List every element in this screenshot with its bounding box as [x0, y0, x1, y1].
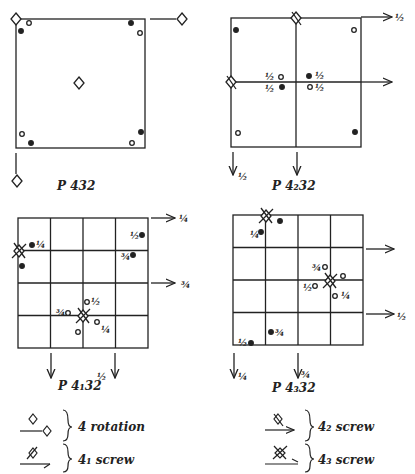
fraction-label: ¼ — [179, 214, 188, 224]
fraction-label: ½ — [265, 84, 274, 94]
legend-label: 4₂ screw — [318, 420, 375, 434]
fraction-label: ½ — [238, 338, 247, 348]
fraction-label: ½ — [315, 71, 324, 81]
legend-label: 4₁ screw — [78, 453, 135, 467]
fraction-label: ½ — [238, 172, 247, 182]
panel-title: P 4₂32 — [271, 179, 316, 193]
fraction-label: ¼ — [36, 240, 45, 250]
brace — [305, 410, 314, 441]
fraction-label: ¾ — [275, 328, 284, 338]
space-group-diagrams: P 432 ½ ½ ½ ½ ½ ½ P 4₂32 — [0, 0, 415, 474]
legend-label: 4₃ screw — [318, 453, 375, 467]
fraction-label: ¾ — [301, 370, 310, 380]
fraction-label: ½ — [315, 83, 324, 93]
fraction-label: ½ — [303, 283, 312, 293]
panel-title: P 432 — [56, 179, 95, 193]
fraction-label: ½ — [395, 13, 404, 23]
fraction-label: ½ — [265, 72, 274, 82]
screw-axis-icon — [76, 308, 90, 323]
screw-axis-icon — [323, 273, 337, 288]
4-2-screw-axis-icon — [265, 414, 294, 430]
brace — [63, 444, 72, 472]
legend — [20, 410, 314, 472]
screw-axis-icon — [259, 208, 273, 223]
rotation-axis-icon — [177, 13, 187, 25]
screw-axis-icon — [226, 76, 236, 89]
panel-title: P 4₃32 — [271, 381, 316, 395]
fraction-label: ¾ — [56, 308, 65, 318]
fraction-label: ¾ — [181, 280, 190, 290]
fraction-label: ½ — [91, 297, 100, 307]
brace — [305, 444, 314, 472]
rotation-axis-icon — [74, 77, 84, 89]
brace — [63, 410, 72, 441]
4-1-screw-axis-icon — [20, 447, 50, 468]
fraction-label: ¼ — [101, 325, 110, 335]
legend-label: 4 rotation — [78, 420, 145, 434]
fraction-label: ½ — [397, 312, 406, 322]
4-fold-rotation-axis-icon — [20, 414, 51, 436]
rotation-axis-icon — [11, 13, 21, 25]
fraction-label: ¼ — [341, 291, 350, 301]
screw-axis-icon — [12, 243, 26, 258]
panel-p432 — [11, 13, 187, 187]
fraction-label: ¼ — [238, 372, 247, 382]
panel-title: P 4₁32 — [57, 379, 102, 393]
fraction-label: ½ — [130, 231, 139, 241]
fraction-label: ¾ — [312, 263, 321, 273]
screw-axis-icon — [291, 12, 301, 25]
panel-p4232 — [226, 12, 392, 175]
rotation-axis-icon — [12, 175, 22, 187]
4-3-screw-axis-icon — [265, 446, 298, 464]
fraction-label: ¼ — [250, 230, 259, 240]
fraction-label: ¾ — [121, 252, 130, 262]
